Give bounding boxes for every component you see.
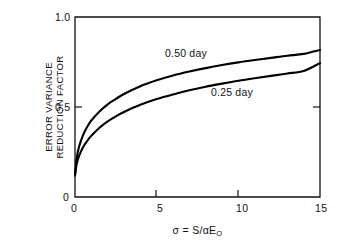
chart-figure: ERROR VARIANCE REDUCTION FACTOR 1.0 0.5 … <box>0 0 362 251</box>
tick-marks <box>75 107 320 197</box>
series-line-025-day <box>75 63 320 175</box>
series-line-050-day <box>75 50 320 175</box>
axes-frame <box>75 17 320 197</box>
plot-area <box>0 0 362 251</box>
data-curves <box>75 50 320 175</box>
